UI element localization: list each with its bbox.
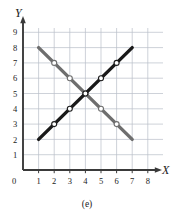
y-axis-label: Y [15, 6, 23, 20]
y-tick-label: 8 [13, 43, 17, 53]
y-tick-label: 4 [13, 104, 18, 114]
descending-marker [52, 60, 57, 65]
x-tick-label: 1 [36, 176, 40, 186]
coordinate-plot: Y X 0 1 2 3 4 5 6 7 8 1 2 3 4 5 6 7 8 9 … [0, 0, 174, 219]
x-tick-label: 5 [99, 176, 103, 186]
y-tick-label: 3 [13, 119, 17, 129]
y-tick-label: 2 [13, 135, 17, 145]
figure-caption: (e) [82, 199, 93, 210]
x-tick-label: 3 [68, 176, 72, 186]
x-tick-label: 4 [83, 176, 88, 186]
origin-tick-label: 0 [12, 176, 16, 186]
x-axis-label: X [161, 163, 170, 177]
descending-marker [67, 76, 72, 81]
y-tick-label: 5 [13, 89, 17, 99]
y-tick-label: 9 [13, 27, 17, 37]
x-tick-label: 7 [130, 176, 134, 186]
y-tick-label: 1 [13, 150, 17, 160]
figure-container: Y X 0 1 2 3 4 5 6 7 8 1 2 3 4 5 6 7 8 9 … [0, 0, 174, 219]
descending-marker [114, 122, 119, 127]
y-tick-label: 6 [13, 73, 17, 83]
ascending-marker [99, 76, 104, 81]
ascending-marker [83, 91, 88, 96]
ascending-marker [67, 106, 72, 111]
y-tick-label: 7 [13, 58, 17, 68]
ascending-marker [114, 60, 119, 65]
axis-arrowheads [20, 16, 162, 173]
x-tick-label: 6 [114, 176, 118, 186]
ascending-marker [52, 122, 57, 127]
x-axis-arrow-icon [155, 167, 162, 173]
x-tick-label: 2 [52, 176, 56, 186]
x-tick-label: 8 [146, 176, 150, 186]
axis-lines [23, 20, 158, 170]
descending-marker [99, 106, 104, 111]
